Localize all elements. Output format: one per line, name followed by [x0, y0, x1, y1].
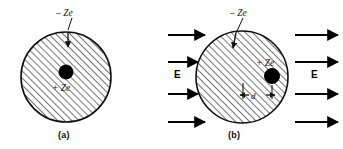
field-label-right: E	[311, 69, 318, 80]
figure-canvas	[0, 0, 343, 149]
field-label-left: E	[174, 69, 181, 80]
panel-a	[21, 18, 111, 122]
nucleus-label-b: + Ze	[256, 58, 274, 68]
electron-cloud-label-b: – Ze	[230, 8, 247, 18]
nucleus-label-a: + Ze	[52, 83, 70, 93]
displacement-label: d	[251, 91, 256, 101]
leader-line-a	[68, 18, 72, 30]
figure-atomic-polarization: – Ze + Ze (a) – Ze + Ze d E E (b)	[0, 0, 343, 149]
electron-cloud-label-a: – Ze	[56, 8, 73, 18]
panel-caption-b: (b)	[228, 130, 240, 140]
nucleus-b	[265, 69, 280, 84]
panel-caption-a: (a)	[58, 130, 70, 140]
nucleus-a	[59, 65, 73, 79]
